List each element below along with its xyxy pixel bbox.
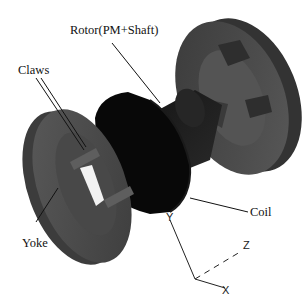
assembly-drawing bbox=[0, 0, 308, 308]
y-axis-line bbox=[170, 220, 195, 279]
z-axis-line bbox=[195, 252, 240, 279]
rotor-label: Rotor(PM+Shaft) bbox=[70, 24, 158, 37]
x-axis-label: X bbox=[222, 285, 229, 296]
x-axis-line bbox=[195, 279, 225, 288]
claw-pole-exploded-diagram: Rotor(PM+Shaft) Claws Yoke Coil Y Z X bbox=[0, 0, 308, 308]
yoke-label: Yoke bbox=[22, 237, 48, 250]
coordinate-axes bbox=[170, 220, 240, 288]
coil-label: Coil bbox=[250, 206, 272, 219]
y-axis-label: Y bbox=[166, 212, 173, 223]
z-axis-label: Z bbox=[243, 240, 250, 251]
claws-label: Claws bbox=[18, 64, 49, 77]
coil-leader-line bbox=[190, 198, 248, 212]
